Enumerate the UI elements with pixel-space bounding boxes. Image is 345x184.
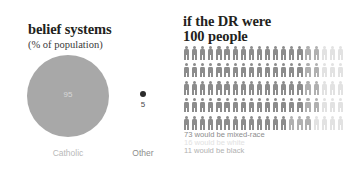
person-icon (183, 80, 191, 98)
person-icon (329, 63, 337, 81)
person-icon (183, 45, 191, 63)
person-icon (321, 45, 329, 63)
person-icon (296, 80, 304, 98)
person-icon (288, 63, 296, 81)
person-icon (321, 115, 329, 133)
population-pictogram-panel: if the DR were 100 people 73 would be mi… (183, 0, 345, 184)
person-icon (191, 80, 199, 98)
person-icon (304, 63, 312, 81)
person-icon (248, 63, 256, 81)
pictogram-title-line2: 100 people (183, 28, 248, 44)
person-icon (288, 45, 296, 63)
pictogram-title: if the DR were 100 people (183, 14, 271, 44)
person-icon (248, 45, 256, 63)
person-icon (256, 45, 264, 63)
pictogram-row (183, 98, 345, 116)
pictogram-title-line1: if the DR were (183, 13, 271, 29)
legend-line-2: 11 would be black (184, 147, 345, 155)
pictogram-grid (183, 45, 345, 133)
catholic-category-label: Catholic (27, 148, 109, 158)
other-value-label: 5 (131, 100, 155, 109)
person-icon (313, 63, 321, 81)
person-icon (215, 63, 223, 81)
pictogram-row (183, 80, 345, 98)
catholic-value-label: 95 (27, 90, 109, 99)
person-icon (223, 63, 231, 81)
person-icon (240, 98, 248, 116)
person-icon (313, 45, 321, 63)
other-dot (140, 91, 146, 97)
person-icon (272, 45, 280, 63)
person-icon (313, 80, 321, 98)
person-icon (313, 115, 321, 133)
person-icon (329, 98, 337, 116)
person-icon (256, 80, 264, 98)
person-icon (199, 63, 207, 81)
person-icon (304, 80, 312, 98)
person-icon (215, 98, 223, 116)
person-icon (232, 45, 240, 63)
person-icon (280, 115, 288, 133)
person-icon (240, 63, 248, 81)
person-icon (337, 45, 345, 63)
belief-systems-title: belief systems (28, 21, 112, 38)
person-icon (264, 45, 272, 63)
person-icon (321, 63, 329, 81)
person-icon (191, 98, 199, 116)
person-icon (329, 115, 337, 133)
person-icon (304, 115, 312, 133)
person-icon (207, 98, 215, 116)
person-icon (337, 80, 345, 98)
person-icon (321, 98, 329, 116)
person-icon (215, 45, 223, 63)
person-icon (280, 98, 288, 116)
person-icon (199, 80, 207, 98)
person-icon (248, 80, 256, 98)
person-icon (264, 80, 272, 98)
person-icon (296, 98, 304, 116)
person-icon (321, 80, 329, 98)
person-icon (223, 45, 231, 63)
person-icon (215, 80, 223, 98)
person-icon (337, 63, 345, 81)
person-icon (240, 80, 248, 98)
person-icon (191, 45, 199, 63)
person-icon (199, 45, 207, 63)
belief-systems-panel: belief systems (% of population) 95 5 Ca… (0, 0, 180, 184)
person-icon (296, 45, 304, 63)
person-icon (280, 45, 288, 63)
person-icon (232, 98, 240, 116)
person-icon (288, 80, 296, 98)
person-icon (329, 80, 337, 98)
other-category-label: Other (125, 148, 161, 158)
person-icon (304, 45, 312, 63)
person-icon (183, 98, 191, 116)
person-icon (264, 63, 272, 81)
person-icon (207, 80, 215, 98)
person-icon (296, 115, 304, 133)
person-icon (191, 63, 199, 81)
person-icon (199, 98, 207, 116)
person-icon (223, 80, 231, 98)
person-icon (288, 98, 296, 116)
person-icon (280, 63, 288, 81)
person-icon (280, 80, 288, 98)
person-icon (232, 63, 240, 81)
person-icon (264, 115, 272, 133)
person-icon (272, 63, 280, 81)
person-icon (313, 98, 321, 116)
person-icon (296, 63, 304, 81)
pictogram-row (183, 63, 345, 81)
infographic-root: belief systems (% of population) 95 5 Ca… (0, 0, 345, 184)
person-icon (288, 115, 296, 133)
person-icon (304, 98, 312, 116)
person-icon (248, 98, 256, 116)
person-icon (272, 115, 280, 133)
pictogram-legend: 73 would be mixed-race16 would be white1… (184, 131, 345, 156)
person-icon (207, 45, 215, 63)
person-icon (329, 45, 337, 63)
person-icon (223, 98, 231, 116)
person-icon (256, 63, 264, 81)
person-icon (183, 63, 191, 81)
person-icon (337, 98, 345, 116)
